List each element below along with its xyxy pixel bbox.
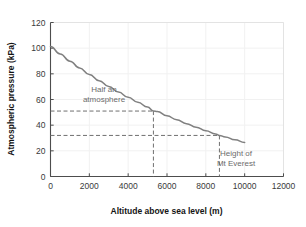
- y-tick-label: 60: [36, 95, 46, 105]
- x-axis-title: Altitude above sea level (m): [111, 206, 223, 216]
- x-tick-label: 12000: [272, 181, 296, 191]
- x-tick-label: 10000: [233, 181, 257, 191]
- x-tick-label: 4000: [119, 181, 138, 191]
- x-tick-label: 0: [48, 181, 53, 191]
- x-tick-label: 2000: [80, 181, 99, 191]
- annotation-mt-everest: Height ofMt Everest: [217, 149, 256, 168]
- atmospheric-pressure-chart: 020004000600080001000012000 020406080100…: [0, 0, 306, 227]
- x-tick-label: 8000: [196, 181, 215, 191]
- y-tick-label: 80: [36, 69, 46, 79]
- y-tick-label: 0: [41, 172, 46, 182]
- chart-canvas: 020004000600080001000012000 020406080100…: [0, 0, 306, 227]
- x-tick-label: 6000: [158, 181, 177, 191]
- y-tick-label: 40: [36, 120, 46, 130]
- y-tick-label: 100: [31, 43, 45, 53]
- y-axis-title: Atmospheric pressure (kPa): [6, 42, 16, 156]
- y-tick-label: 120: [31, 18, 45, 28]
- y-tick-label: 20: [36, 146, 46, 156]
